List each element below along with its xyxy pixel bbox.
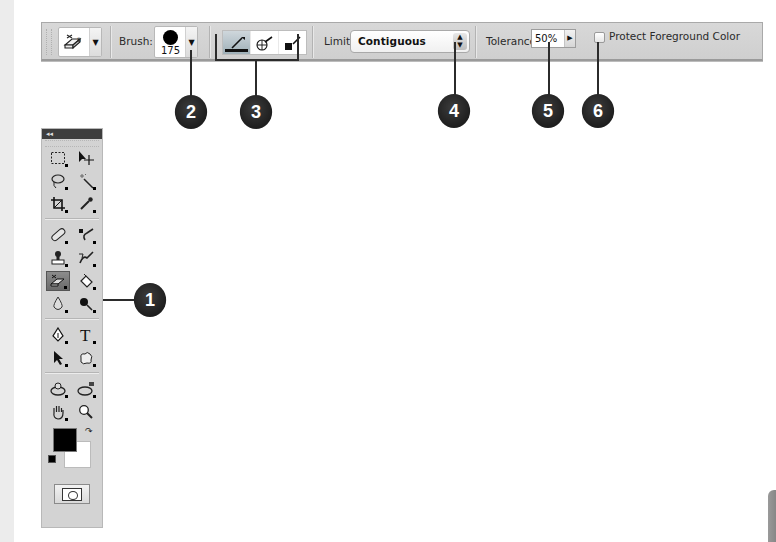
protect-foreground-label: Protect Foreground Color (609, 30, 740, 42)
magnifier-icon (78, 404, 94, 420)
separator (475, 26, 476, 58)
arrow-pointer-icon (51, 350, 65, 366)
type-tool[interactable]: T (74, 325, 98, 345)
eyedropper-continuous-icon (226, 35, 248, 51)
preset-dropdown-arrow[interactable]: ▼ (89, 28, 101, 56)
stamp-icon (50, 250, 66, 266)
options-bar-grip[interactable] (46, 29, 52, 55)
separator (110, 26, 111, 58)
callout-badge-5: 5 (532, 94, 564, 128)
default-colors-icon[interactable] (48, 455, 58, 465)
quick-mask-button[interactable] (54, 484, 90, 504)
eyedropper-icon (78, 196, 94, 212)
brush-tip-icon (163, 30, 178, 45)
lasso-tool[interactable] (46, 171, 70, 191)
sampling-background-swatch-button[interactable] (279, 31, 306, 54)
background-eraser-tool[interactable] (46, 271, 70, 291)
separator (209, 26, 210, 58)
tolerance-field: ▶ (531, 29, 576, 48)
callout-line-2 (190, 50, 192, 100)
separator (312, 26, 313, 58)
callout-badge-1: 1 (134, 283, 166, 317)
callout-badge-3: 3 (240, 95, 272, 129)
healing-brush-tool[interactable] (46, 225, 70, 245)
move-tool[interactable] (74, 148, 98, 168)
zoom-tool[interactable] (74, 402, 98, 422)
limits-value: Contiguous (358, 35, 426, 47)
tolerance-slider-button[interactable]: ▶ (564, 30, 575, 47)
marquee-tool[interactable] (46, 148, 70, 168)
pen-nib-icon (51, 327, 65, 343)
callout-line-3 (255, 60, 257, 100)
svg-text:5: 5 (77, 36, 81, 43)
callout-line-4 (454, 42, 456, 100)
blur-tool[interactable] (46, 294, 70, 314)
3d-orbit-tool[interactable] (74, 379, 98, 399)
paint-bucket-tool[interactable] (74, 271, 98, 291)
water-drop-icon (51, 296, 65, 312)
brush-label: Brush: (119, 35, 153, 47)
eyedropper-background-swatch-icon (282, 35, 304, 51)
tools-separator (45, 372, 99, 373)
sampling-buttons (222, 30, 307, 55)
page-edge-strip (0, 0, 14, 542)
hand-icon (50, 404, 66, 420)
tool-preset-picker[interactable]: 5 ▼ (58, 27, 102, 57)
brush-tool[interactable] (74, 225, 98, 245)
clone-stamp-tool[interactable] (46, 248, 70, 268)
callout-bracket-bottom (215, 59, 299, 61)
collapse-icon[interactable]: ◂◂ (46, 130, 53, 138)
custom-shape-tool[interactable] (74, 348, 98, 368)
custom-shape-icon (78, 350, 94, 366)
lasso-icon (50, 173, 66, 189)
tools-separator (45, 318, 99, 319)
3d-rotate-tool[interactable] (46, 379, 70, 399)
crop-icon (50, 196, 66, 212)
callout-bracket-right (297, 34, 299, 60)
callout-line-6 (597, 42, 599, 100)
callout-badge-6: 6 (582, 94, 614, 128)
burn-tool[interactable] (74, 294, 98, 314)
eyedropper-once-icon (254, 35, 276, 51)
tools-separator (45, 218, 99, 219)
magic-wand-tool[interactable] (74, 171, 98, 191)
hand-tool[interactable] (46, 402, 70, 422)
sampling-continuous-button[interactable] (223, 31, 250, 54)
protect-foreground-checkbox[interactable] (594, 32, 605, 43)
tools-panel-grip[interactable] (45, 140, 99, 147)
paint-bucket-icon (78, 273, 94, 289)
swap-colors-icon[interactable]: ↷ (85, 426, 93, 436)
quick-mask-icon (62, 488, 82, 501)
callout-line-5 (548, 42, 550, 100)
callout-badge-4: 4 (438, 94, 470, 128)
pen-tool[interactable] (46, 325, 70, 345)
path-selection-tool[interactable] (46, 348, 70, 368)
svg-text:T: T (80, 327, 91, 343)
callout-badge-2: 2 (175, 95, 207, 129)
background-eraser-icon: 5 (59, 28, 89, 56)
color-swatches: ↷ (42, 426, 102, 482)
tools-panel: ◂◂ (41, 128, 103, 528)
history-brush-tool[interactable] (74, 248, 98, 268)
foreground-color-swatch[interactable] (53, 428, 77, 452)
eyedropper-tool[interactable] (74, 194, 98, 214)
sampling-once-button[interactable] (251, 31, 278, 54)
brush-preview: 175 (155, 27, 185, 57)
brush-size: 175 (155, 45, 186, 57)
dodge-burn-icon (78, 296, 94, 312)
page-corner-tab (768, 490, 776, 542)
limits-select[interactable]: Contiguous ▲▼ (350, 30, 470, 53)
callout-bracket-left (215, 34, 217, 60)
rectangular-marquee-icon (50, 151, 66, 165)
options-bar: 5 ▼ Brush: 175 ▼ (41, 22, 763, 61)
type-icon: T (78, 327, 94, 343)
move-icon (77, 150, 95, 166)
tools-panel-header[interactable]: ◂◂ (42, 129, 102, 139)
crop-tool[interactable] (46, 194, 70, 214)
magic-wand-icon (78, 173, 94, 189)
